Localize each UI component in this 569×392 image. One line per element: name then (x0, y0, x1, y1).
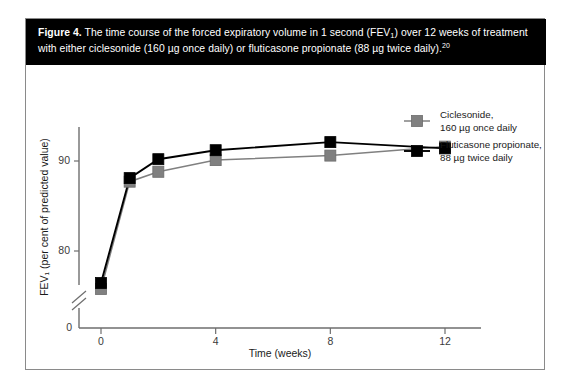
data-point-marker (153, 166, 164, 177)
data-point-marker (210, 155, 221, 166)
caption-segment-1: The time course of the forced expiratory… (82, 27, 391, 38)
data-point-marker (210, 145, 221, 156)
legend-label: 160 µg once daily (440, 122, 517, 133)
x-axis-tick-label: 8 (327, 335, 333, 347)
x-axis-title: Time (weeks) (249, 347, 312, 359)
legend-marker-fluticasone (412, 146, 423, 157)
chart-legend: Ciclesonide,160 µg once dailyFluticasone… (404, 109, 542, 163)
x-axis-tick-label: 0 (98, 335, 104, 347)
caption-reference-superscript: 20 (442, 41, 450, 48)
y-axis-tick-label: 90 (58, 154, 70, 166)
figure-caption-bar: Figure 4. The time course of the forced … (26, 19, 546, 65)
y-axis-break-marks (72, 291, 86, 310)
legend-label: 88 µg twice daily (440, 152, 513, 163)
figure-caption-text: Figure 4. The time course of the forced … (38, 25, 534, 56)
x-axis-tick-label: 12 (439, 335, 451, 347)
y-axis-origin-label: 0 (66, 321, 72, 333)
y-axis-tick-label: 80 (58, 244, 70, 256)
legend-label: Fluticasone propionate, (440, 139, 542, 150)
legend-marker-ciclesonide (412, 116, 423, 127)
figure-number-label: Figure 4. (38, 27, 82, 38)
data-point-marker (96, 278, 107, 289)
chart-series-layer (96, 137, 451, 295)
legend-label: Ciclesonide, (440, 109, 493, 120)
chart-plot-area: 8090 0 04812 Time (weeks) FEV₁ (per cent… (26, 65, 546, 370)
line-chart-svg: 8090 0 04812 Time (weeks) FEV₁ (per cent… (26, 65, 546, 370)
figure-container: Figure 4. The time course of the forced … (25, 18, 545, 370)
x-axis-tick-label: 4 (213, 335, 219, 347)
y-axis-ticks: 8090 (58, 154, 79, 256)
data-point-marker (124, 173, 135, 184)
y-axis-title: FEV₁ (per cent of predicted value) (38, 138, 50, 296)
data-point-marker (153, 154, 164, 165)
data-point-marker (325, 150, 336, 161)
x-axis-ticks: 04812 (98, 328, 451, 347)
data-point-marker (325, 137, 336, 148)
